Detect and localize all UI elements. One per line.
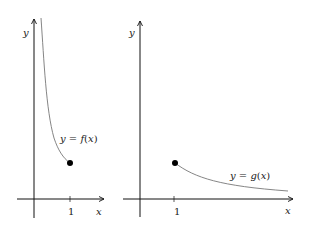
diagram-canvas: y 1 x y = f(x) y 1 x y = g(x) [0, 0, 310, 228]
right-function-label: y = g(x) [229, 170, 270, 181]
right-plot: y 1 x y = g(x) [123, 21, 293, 217]
right-tick-label: 1 [174, 206, 180, 217]
right-x-axis-label: x [285, 205, 291, 216]
left-function-label: y = f(x) [59, 133, 98, 144]
left-tick-label: 1 [68, 206, 74, 217]
left-plot: y 1 x y = f(x) [17, 18, 104, 218]
right-endpoint-dot [172, 160, 178, 166]
left-endpoint-dot [67, 160, 73, 166]
left-x-axis-label: x [96, 206, 102, 217]
left-y-axis-label: y [22, 27, 29, 38]
right-y-axis-label: y [128, 27, 135, 38]
